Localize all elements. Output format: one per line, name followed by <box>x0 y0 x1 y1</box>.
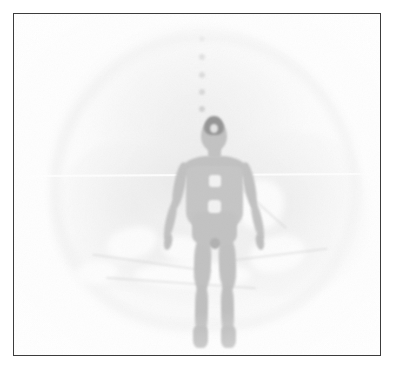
left-forearm <box>162 200 180 241</box>
marker-dot-2 <box>199 54 205 60</box>
ghost-basin-shape <box>66 226 336 336</box>
ghost-fenestration-c <box>235 176 288 234</box>
scan-figure-root <box>0 0 396 370</box>
ghost-strand-1 <box>92 254 211 273</box>
left-thigh <box>193 240 212 291</box>
crown-highlight <box>210 124 218 133</box>
right-thigh <box>218 240 237 291</box>
marker-dot-1 <box>200 37 205 42</box>
human-body-silhouette <box>14 14 380 355</box>
right-upper-arm <box>240 161 260 208</box>
horizontal-scan-line <box>14 173 380 177</box>
ghost-fenestration-d <box>247 231 308 276</box>
vertical-dotted-marker-track <box>14 14 380 355</box>
right-shin <box>221 284 235 334</box>
right-foot <box>221 326 236 348</box>
exposure-wash <box>14 14 380 355</box>
ghost-strand-2 <box>224 248 327 263</box>
ghost-mass-core <box>132 122 272 232</box>
ghost-mass-left <box>52 142 202 292</box>
scanner-dome-shape <box>46 20 346 320</box>
right-forearm <box>249 200 267 241</box>
hair-cap <box>204 116 224 135</box>
pelvic-marker-patch <box>210 238 220 249</box>
chest-marker-patch <box>209 175 221 187</box>
left-upper-arm <box>170 161 190 208</box>
ghost-fenestration-e <box>134 262 252 288</box>
left-foot <box>193 326 208 348</box>
marker-dot-3 <box>199 72 205 78</box>
scanner-dome-rim <box>50 32 360 330</box>
ghost-fenestration-b <box>160 233 203 264</box>
ghost-strand-4 <box>229 177 287 229</box>
scan-canvas <box>14 14 380 355</box>
shoulders <box>181 156 248 178</box>
ghost-strand-3 <box>106 277 256 289</box>
torso <box>186 166 243 228</box>
ghost-mass-right <box>210 132 370 297</box>
cranial-arc-shape <box>92 24 304 144</box>
film-grain-overlay <box>14 14 380 355</box>
marker-dot-4 <box>199 89 205 95</box>
left-shin <box>195 284 209 334</box>
corner-vignette <box>14 14 380 355</box>
ghost-fenestration-a <box>103 222 161 264</box>
left-hand <box>163 233 174 250</box>
pelvis <box>192 212 237 246</box>
abdomen-marker-patch <box>208 200 221 213</box>
right-hand <box>255 233 266 250</box>
marker-dot-5 <box>199 106 205 112</box>
head <box>201 119 227 151</box>
ghost-fenestration-f <box>73 259 120 287</box>
neck <box>208 146 221 158</box>
image-frame <box>13 13 381 356</box>
